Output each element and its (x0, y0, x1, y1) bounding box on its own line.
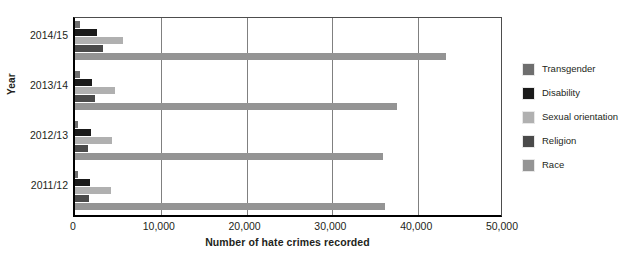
x-axis-tick-labels: 010,00020,00030,00040,00050,000 (0, 220, 624, 236)
legend-item[interactable]: Sexual orientation (522, 105, 622, 129)
bar-group (75, 18, 501, 68)
bar (75, 121, 78, 128)
legend-item[interactable]: Transgender (522, 57, 622, 81)
x-axis-tick-label: 20,000 (229, 220, 261, 232)
bar (75, 71, 80, 78)
bar (75, 129, 91, 136)
y-axis-tick-label: 2012/13 (2, 129, 68, 141)
bar-group (75, 68, 501, 118)
y-axis-tick-label: 2013/14 (2, 79, 68, 91)
x-axis-tick-label: 0 (70, 220, 76, 232)
legend-item[interactable]: Disability (522, 81, 622, 105)
bar (75, 53, 446, 60)
legend-item[interactable]: Race (522, 153, 622, 177)
y-axis-tick-label: 2011/12 (2, 179, 68, 191)
bar (75, 187, 111, 194)
bar (75, 79, 92, 86)
bar (75, 179, 90, 186)
bar (75, 195, 89, 202)
legend-swatch-icon (522, 87, 535, 100)
bar (75, 45, 103, 52)
bar (75, 103, 397, 110)
legend-swatch-icon (522, 159, 535, 172)
bar (75, 95, 95, 102)
legend-label: Sexual orientation (542, 112, 618, 122)
legend-item[interactable]: Religion (522, 129, 622, 153)
legend-label: Race (542, 160, 564, 170)
bar (75, 87, 115, 94)
bar (75, 37, 123, 44)
x-axis-tick-label: 10,000 (143, 220, 175, 232)
legend-swatch-icon (522, 63, 535, 76)
chart-legend: TransgenderDisabilitySexual orientationR… (522, 57, 622, 177)
bar (75, 145, 88, 152)
x-axis-title: Number of hate crimes recorded (73, 236, 502, 248)
x-axis-tick-label: 30,000 (314, 220, 346, 232)
legend-swatch-icon (522, 135, 535, 148)
bar (75, 171, 78, 178)
bar-group (75, 118, 501, 168)
legend-label: Transgender (542, 64, 596, 74)
x-axis-tick-label: 40,000 (400, 220, 432, 232)
hate-crimes-bar-chart: Year 2014/152013/142012/132011/12 010,00… (0, 0, 624, 265)
bar-group (75, 168, 501, 218)
bar (75, 21, 80, 28)
y-axis-tick-labels: 2014/152013/142012/132011/12 (0, 17, 68, 217)
legend-label: Disability (542, 88, 580, 98)
x-axis-tick-label: 50,000 (486, 220, 518, 232)
bar (75, 203, 385, 210)
plot-area (73, 17, 502, 217)
bar (75, 137, 112, 144)
bar (75, 153, 383, 160)
legend-swatch-icon (522, 111, 535, 124)
bar (75, 29, 97, 36)
y-axis-tick-label: 2014/15 (2, 29, 68, 41)
legend-label: Religion (542, 136, 576, 146)
